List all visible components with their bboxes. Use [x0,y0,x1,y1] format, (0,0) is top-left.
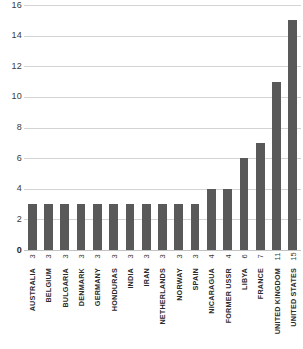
bar [109,204,118,250]
x-axis-category: 3BELGIUM [40,250,56,349]
bar-value-label: 11 [272,253,281,261]
category-label: IRAN [142,268,151,286]
bar-value-label: 7 [256,254,265,258]
y-axis-tick-label: 14 [2,31,22,40]
category-label: NORWAY [174,268,183,301]
bar [126,204,135,250]
bar [174,204,183,250]
category-label: NETHERLANDS [158,268,167,325]
x-axis-category: 4FORMER USSR [220,250,236,349]
bar-value-label: 6 [239,254,248,258]
category-label: UNITED KINGDOM [272,268,281,334]
x-axis-category: 6LIBYA [236,250,252,349]
x-axis-category: 4NICARAGUA [203,250,219,349]
bar-value-label: 3 [77,254,86,258]
bar [272,82,281,250]
bar [256,143,265,250]
y-axis-tick-label: 10 [2,92,22,101]
bar [142,204,151,250]
bar-value-label: 15 [288,252,297,260]
category-label: UNITED STATES [288,268,297,327]
x-axis-category: 3AUSTRALIA [24,250,40,349]
bar [158,204,167,250]
bar [44,204,53,250]
x-axis-category: 15UNITED STATES [285,250,301,349]
x-axis-category: 3NORWAY [171,250,187,349]
category-label: DENMARK [77,268,86,306]
x-axis: 3AUSTRALIA3BELGIUM3BULGARIA3DENMARK3GERM… [24,250,301,349]
x-axis-category: 3NETHERLANDS [154,250,170,349]
y-axis-tick-label: 8 [2,123,22,132]
category-label: BELGIUM [44,268,53,303]
bar-value-label: 3 [109,254,118,258]
y-axis-tick-label: 16 [2,1,22,10]
bar [28,204,37,250]
x-axis-category: 3IRAN [138,250,154,349]
y-axis-tick-label: 0 [2,246,22,255]
category-label: NICARAGUA [207,268,216,314]
bar-value-label: 3 [142,254,151,258]
bars-layer [24,5,301,250]
category-label: AUSTRALIA [28,268,37,311]
bar-value-label: 3 [60,254,69,258]
plot-area [24,5,301,250]
bar-chart: 0246810121416 3AUSTRALIA3BELGIUM3BULGARI… [0,0,303,349]
x-axis-category: 3GERMANY [89,250,105,349]
category-label: FRANCE [256,268,265,299]
y-axis-tick-label: 6 [2,154,22,163]
category-label: SPAIN [191,268,200,290]
x-axis-category: 3BULGARIA [57,250,73,349]
bar [60,204,69,250]
bar [207,189,216,250]
x-axis-category: 3DENMARK [73,250,89,349]
category-label: HONDURAS [109,268,118,311]
bar-value-label: 3 [28,254,37,258]
y-axis-tick-label: 12 [2,62,22,71]
x-axis-category: 3HONDURAS [105,250,121,349]
bar-value-label: 4 [223,254,232,258]
bar [240,158,249,250]
bar [77,204,86,250]
bar-value-label: 4 [207,254,216,258]
bar [223,189,232,250]
category-label: INDIA [125,268,134,289]
bar-value-label: 3 [125,254,134,258]
y-axis-tick-label: 2 [2,215,22,224]
bar-value-label: 3 [191,254,200,258]
y-axis: 0246810121416 [0,0,22,349]
bar [191,204,200,250]
bar [288,20,297,250]
x-axis-category: 3SPAIN [187,250,203,349]
x-axis-category: 7FRANCE [252,250,268,349]
y-axis-tick-label: 4 [2,184,22,193]
bar-value-label: 3 [44,254,53,258]
bar-value-label: 3 [158,254,167,258]
bar-value-label: 3 [93,254,102,258]
bar-value-label: 3 [174,254,183,258]
x-axis-category: 3INDIA [122,250,138,349]
category-label: FORMER USSR [223,268,232,323]
bar [93,204,102,250]
category-label: LIBYA [239,268,248,290]
x-axis-category: 11UNITED KINGDOM [268,250,284,349]
category-label: GERMANY [93,268,102,306]
category-label: BULGARIA [60,268,69,308]
